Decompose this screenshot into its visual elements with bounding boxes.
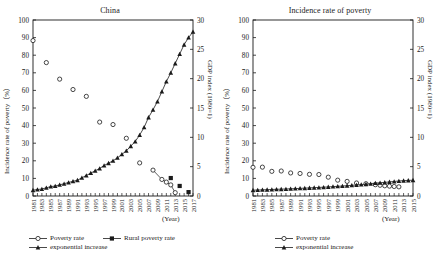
data-point-open-circle — [336, 178, 340, 182]
x-tick-label: 2007 — [372, 198, 379, 212]
x-tick-label: 1997 — [325, 198, 332, 212]
y-tick-label-left: 60 — [242, 87, 250, 95]
data-point-open-circle — [270, 169, 274, 173]
data-point-open-circle — [164, 180, 168, 184]
y-tick-label-left: 50 — [22, 105, 30, 113]
x-tick-label: 2003 — [127, 198, 134, 212]
data-point-open-circle — [289, 171, 293, 175]
data-point-filled-triangle — [106, 161, 111, 165]
legend-marker-open-circle — [28, 234, 48, 243]
y-tick-label-right: 10 — [417, 134, 425, 142]
data-point-filled-triangle — [155, 99, 160, 103]
legend-item-poverty-rate-2[interactable]: Poverty rate — [274, 234, 330, 243]
data-point-open-circle — [71, 87, 75, 91]
x-tick-label: 1989 — [287, 198, 294, 212]
data-point-open-circle — [279, 169, 283, 173]
x-tick-label: 1999 — [110, 198, 117, 212]
legend-marker-open-circle — [274, 234, 294, 243]
data-point-open-circle — [317, 172, 321, 176]
legend-item-poverty-rate[interactable]: Poverty rate — [28, 234, 84, 243]
data-point-open-circle — [392, 184, 396, 188]
legend-marker-filled-square — [102, 234, 122, 243]
plot-frame — [253, 20, 413, 196]
data-point-filled-triangle — [168, 71, 173, 75]
y-tick-label-right: 20 — [417, 75, 425, 83]
x-tick-label: 1991 — [74, 199, 81, 212]
x-tick-label: 1985 — [47, 198, 54, 212]
data-point-filled-triangle — [84, 173, 89, 177]
series-line-exponential-increase — [33, 32, 193, 190]
legend-item-exponential-increase-2[interactable]: exponential increase — [274, 243, 353, 252]
x-tick-label: 1997 — [101, 198, 108, 212]
data-point-open-circle — [307, 172, 311, 176]
y-tick-label-left: 90 — [22, 34, 30, 42]
x-tick-label: 2015 — [181, 198, 188, 212]
data-point-filled-triangle — [160, 89, 165, 93]
data-point-open-circle — [84, 94, 88, 98]
y-tick-label-left: 60 — [22, 87, 30, 95]
x-tick-label: 2011 — [391, 199, 398, 212]
data-point-open-circle — [251, 165, 255, 169]
y-tick-label-left: 100 — [18, 17, 29, 25]
data-point-open-circle — [44, 60, 48, 64]
figure-root: China Incidence rate of poverty（%） GDP i… — [0, 0, 440, 269]
y-tick-label-left: 30 — [242, 140, 250, 148]
x-tick-label: 1987 — [278, 198, 285, 212]
y-tick-label-right: 0 — [417, 193, 421, 201]
y-tick-label-left: 80 — [22, 52, 30, 60]
legend-marker-filled-triangle — [28, 243, 48, 252]
x-tick-label: 1989 — [65, 198, 72, 212]
legend-item-exponential-increase[interactable]: exponential increase — [28, 243, 107, 252]
data-point-filled-triangle — [88, 171, 93, 175]
data-point-filled-triangle — [137, 133, 142, 137]
x-tick-label: 1991 — [297, 199, 304, 212]
legend-item-rural-poverty-rate[interactable]: Rural poverty rate — [102, 234, 175, 243]
data-point-filled-triangle — [80, 176, 85, 180]
data-point-open-circle — [160, 177, 164, 181]
data-point-open-circle — [58, 77, 62, 81]
y-tick-label-left: 70 — [242, 69, 250, 77]
x-tick-label: 1995 — [92, 198, 99, 212]
x-tick-label: 2011 — [163, 199, 170, 212]
y-tick-label-left: 40 — [242, 122, 250, 130]
data-point-filled-triangle — [102, 163, 107, 167]
y-tick-label-left: 20 — [22, 157, 30, 165]
data-point-filled-triangle — [93, 168, 98, 172]
data-point-open-circle — [387, 184, 391, 188]
data-point-filled-triangle — [111, 159, 116, 163]
legend-label-exponential-increase: exponential increase — [50, 243, 107, 252]
x-tick-label: 2015 — [410, 198, 417, 212]
data-point-filled-triangle — [173, 61, 178, 65]
x-tick-label: 2009 — [154, 198, 161, 212]
y-tick-label-left: 80 — [242, 52, 250, 60]
y-tick-label-right: 10 — [197, 134, 205, 142]
plot-area-china: 0102030405060708090100051015202530198119… — [0, 0, 220, 269]
data-point-filled-triangle — [151, 107, 156, 111]
panel-china: China Incidence rate of poverty（%） GDP i… — [0, 0, 220, 269]
data-point-filled-triangle — [182, 42, 187, 46]
x-tick-label: 1985 — [268, 198, 275, 212]
y-tick-label-right: 30 — [417, 17, 425, 25]
data-point-open-circle — [326, 175, 330, 179]
y-tick-label-right: 30 — [197, 17, 205, 25]
panel-incidence: Incidence rate of poverty Incidence rate… — [220, 0, 440, 269]
data-point-open-circle — [397, 185, 401, 189]
x-tick-label: 2007 — [145, 198, 152, 212]
x-tick-label: 1993 — [83, 198, 90, 212]
legend-label-poverty-rate-2: Poverty rate — [296, 234, 330, 243]
data-point-open-circle — [345, 179, 349, 183]
data-point-open-circle — [173, 191, 177, 195]
y-tick-label-right: 5 — [197, 163, 201, 171]
data-point-open-circle — [98, 120, 102, 124]
data-point-filled-square — [186, 190, 190, 194]
x-tick-label: 2001 — [344, 199, 351, 212]
plot-area-incidence: 0102030405060708090100051015202530198119… — [220, 0, 440, 269]
plot-frame — [33, 20, 193, 196]
data-point-filled-triangle — [142, 125, 147, 129]
legend-label-poverty-rate: Poverty rate — [50, 234, 84, 243]
x-tick-label: 1995 — [315, 198, 322, 212]
y-tick-label-right: 25 — [197, 46, 205, 54]
legend-label-rural-poverty-rate: Rural poverty rate — [124, 234, 175, 243]
y-tick-label-left: 30 — [22, 140, 30, 148]
data-point-open-circle — [111, 122, 115, 126]
